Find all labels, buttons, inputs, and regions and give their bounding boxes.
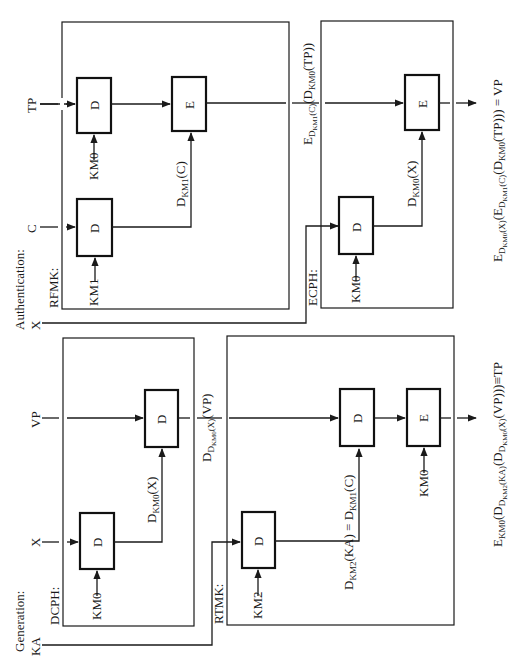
auth-mid-output-label: EDKM1(C)(DKM0(TP)) [300,43,319,145]
rfmk-encrypt-block-label: E [182,101,197,109]
dcph-label: DCPH: [47,587,62,625]
authentication-section: Authentication: X RFMK: TP D KM0 E [12,21,509,330]
ecph-label: ECPH: [305,269,320,306]
tp-input-label: TP [24,98,39,113]
generation-section-label: Generation: [12,591,27,652]
ecph-frame: ECPH: D KM0 DKM0(X) E [305,21,453,308]
rfmk-label: RFMK: [46,268,61,308]
auth-x-input-label: X [28,320,43,330]
rtmk-decrypt-block-2-label: D [350,414,365,423]
rfmk-km1-key-label: KM1 [86,279,101,306]
dcph-dkm0x-label: DKM0(X) [144,477,161,523]
auth-final-output-label: EDKM0(X)(EDKM1(C)(DKM0(TP))) = VP [490,79,509,262]
key-management-diagram: Authentication: X RFMK: TP D KM0 E [0,0,515,668]
rfmk-frame: RFMK: TP D KM0 E C D [24,22,289,309]
c-input-label: C [24,224,39,233]
dcph-decrypt-block-2-label: D [154,415,169,424]
rfmk-decrypt-block-1-label: D [87,101,102,110]
dcph-km0-key-label: KM0 [89,593,104,620]
rfmk-decrypt-block-2-label: D [87,224,102,233]
rtmk-km0-key-label: KM0 [416,470,431,497]
rtmk-frame: RTMK: D KM2 DKM2(KA) = DKM1(C) D E KM0 [211,336,454,625]
dcph-decrypt-block-1-label: D [90,538,105,547]
ecph-decrypt-block-label: D [349,223,364,232]
gen-final-output-label: EKM0(DDKM2(KA)(DDKM0(X)(VP)))≡TP [490,362,509,547]
rtmk-encrypt-block-label: E [416,414,431,422]
gen-mid-output-label: DDKM0(X)(VP) [199,394,218,462]
ka-input-label: KA [28,637,43,656]
generation-section: Generation: KA DCPH: X D KM0 DKM0(X) VP [12,336,509,656]
ecph-encrypt-block-label: E [415,100,430,108]
rfmk-dkm1c-label: DKM1(C) [173,161,190,207]
rtmk-label: RTMK: [211,584,226,624]
dcph-x-input-label: X [28,537,43,547]
authentication-section-label: Authentication: [12,249,27,330]
vp-input-label: VP [28,411,43,428]
rtmk-equation-label: DKM2(KA) = DKM1(C) [341,475,358,590]
rtmk-decrypt-block-1-label: D [251,537,266,546]
dcph-frame: DCPH: X D KM0 DKM0(X) VP D [28,338,194,626]
ecph-dkm0x-label: DKM0(X) [404,161,421,207]
